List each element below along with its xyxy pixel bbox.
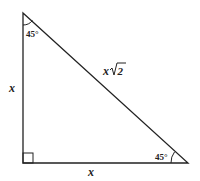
triangle-diagram: 45° 45° x x x 2	[0, 0, 200, 181]
hypotenuse-root: 2	[117, 65, 124, 77]
bottom-right-angle-arc	[171, 152, 175, 163]
top-angle-label: 45°	[26, 29, 39, 39]
left-leg-label: x	[8, 81, 15, 95]
hypotenuse-label: x 2	[102, 63, 126, 78]
triangle	[23, 13, 188, 163]
hypotenuse-var: x	[102, 64, 109, 78]
right-angle-marker	[23, 153, 33, 163]
bottom-leg-label: x	[87, 165, 94, 179]
bottom-right-angle-label: 45°	[155, 152, 168, 162]
